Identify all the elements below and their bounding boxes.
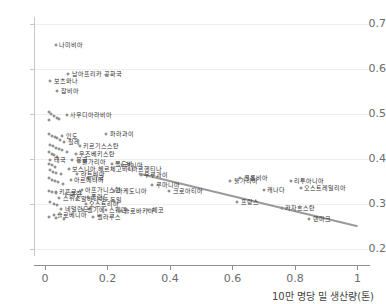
data-point[interactable] bbox=[56, 89, 59, 92]
data-point[interactable] bbox=[48, 118, 51, 121]
data-point[interactable] bbox=[168, 189, 171, 192]
data-point[interactable] bbox=[65, 114, 68, 117]
x-tick-mark bbox=[107, 265, 108, 270]
gridline bbox=[34, 24, 370, 25]
data-point-label: 아르메니아 bbox=[74, 177, 104, 183]
data-point[interactable] bbox=[71, 158, 74, 161]
data-point[interactable] bbox=[54, 43, 57, 46]
data-point[interactable] bbox=[48, 215, 51, 218]
x-tick-mark bbox=[295, 265, 296, 270]
data-point[interactable] bbox=[55, 172, 58, 175]
data-point[interactable] bbox=[58, 197, 61, 200]
y-tick-label: 0.2 bbox=[360, 242, 386, 255]
data-point[interactable] bbox=[67, 167, 70, 170]
data-point[interactable] bbox=[76, 198, 79, 201]
data-point[interactable] bbox=[57, 181, 60, 184]
y-tick-mark bbox=[30, 24, 34, 25]
data-point-label: 체코 bbox=[152, 207, 164, 213]
y-tick-mark bbox=[30, 114, 34, 115]
y-axis-line bbox=[34, 17, 35, 256]
data-point[interactable] bbox=[262, 188, 265, 191]
data-point[interactable] bbox=[59, 138, 62, 141]
data-point-label: 파라과이 bbox=[110, 131, 134, 137]
data-point[interactable] bbox=[69, 179, 72, 182]
y-tick-label: 0.3 bbox=[360, 197, 386, 210]
data-point[interactable] bbox=[54, 192, 57, 195]
data-point-label: 카자흐스탄 bbox=[285, 205, 315, 211]
y-tick-label: 0.6 bbox=[360, 62, 386, 75]
data-point-label: 프랑스 bbox=[241, 199, 259, 205]
gridline bbox=[34, 249, 370, 250]
y-tick-label: 0.7 bbox=[360, 17, 386, 30]
data-point[interactable] bbox=[74, 152, 77, 155]
x-tick-label: 0.8 bbox=[286, 272, 304, 285]
x-axis-line bbox=[34, 265, 370, 266]
data-point[interactable] bbox=[104, 209, 107, 212]
data-point[interactable] bbox=[62, 218, 65, 221]
data-point[interactable] bbox=[299, 186, 302, 189]
data-point[interactable] bbox=[56, 204, 59, 207]
data-point-label: 태국 bbox=[54, 157, 66, 163]
data-point-label: 캐나다 bbox=[267, 187, 285, 193]
data-point[interactable] bbox=[78, 145, 81, 148]
data-point[interactable] bbox=[139, 174, 142, 177]
data-point-label: 벨라루스 bbox=[97, 214, 121, 220]
data-point-label: 오스트레일리아 bbox=[304, 185, 346, 191]
data-point[interactable] bbox=[54, 217, 57, 220]
data-point-label: 우루과이 bbox=[144, 172, 168, 178]
data-point[interactable] bbox=[151, 183, 154, 186]
x-tick-label: 0 bbox=[41, 272, 48, 285]
data-point[interactable] bbox=[289, 179, 292, 182]
data-point[interactable] bbox=[239, 176, 242, 179]
data-point[interactable] bbox=[58, 118, 61, 121]
y-tick-mark bbox=[30, 204, 34, 205]
data-point[interactable] bbox=[112, 190, 115, 193]
data-point[interactable] bbox=[105, 133, 108, 136]
x-tick-mark bbox=[232, 265, 233, 270]
data-point[interactable] bbox=[92, 215, 95, 218]
data-point[interactable] bbox=[48, 201, 51, 204]
data-point-label: 보츠와나 bbox=[54, 78, 78, 84]
data-point[interactable] bbox=[77, 160, 80, 163]
y-tick-mark bbox=[30, 69, 34, 70]
y-tick-mark bbox=[30, 159, 34, 160]
x-tick-mark bbox=[170, 265, 171, 270]
x-axis-title: 10만 명당 밀 생산량(톤) bbox=[272, 288, 374, 303]
data-point-label: 마케도니아 bbox=[117, 188, 147, 194]
data-point[interactable] bbox=[67, 73, 70, 76]
data-point[interactable] bbox=[49, 159, 52, 162]
data-point[interactable] bbox=[308, 218, 311, 221]
data-point[interactable] bbox=[52, 202, 55, 205]
x-tick-mark bbox=[45, 265, 46, 270]
data-point-label: 잠비아 bbox=[61, 88, 79, 94]
data-point-label: 콜롬비아 bbox=[244, 175, 268, 181]
data-point[interactable] bbox=[63, 141, 66, 144]
data-point[interactable] bbox=[54, 165, 57, 168]
x-tick-label: 1 bbox=[354, 272, 361, 285]
data-point-label: 덴마크 bbox=[313, 216, 331, 222]
data-point-label: 남아프리카 공화국 bbox=[72, 71, 122, 77]
data-point[interactable] bbox=[60, 149, 63, 152]
data-point[interactable] bbox=[127, 167, 130, 170]
data-point-label: 벨기에 bbox=[87, 207, 105, 213]
data-point-label: 크로아티아 bbox=[173, 188, 203, 194]
data-point[interactable] bbox=[59, 172, 62, 175]
data-point-label: 아프가니스탄 bbox=[85, 187, 121, 193]
data-point[interactable] bbox=[147, 209, 150, 212]
data-point[interactable] bbox=[62, 182, 65, 185]
data-point[interactable] bbox=[49, 80, 52, 83]
data-point-label: 사우디아라비아 bbox=[70, 112, 112, 118]
scatter-chart: 0.20.30.40.50.60.7 00.20.40.60.81 나미비아남아… bbox=[0, 0, 386, 304]
data-point-label: 키르기스스탄 bbox=[83, 143, 119, 149]
data-point[interactable] bbox=[61, 134, 64, 137]
y-tick-label: 0.5 bbox=[360, 107, 386, 120]
data-point[interactable] bbox=[229, 179, 232, 182]
data-point-label: 리투아니아 bbox=[294, 178, 324, 184]
data-point[interactable] bbox=[65, 150, 68, 153]
x-tick-label: 0.4 bbox=[161, 272, 179, 285]
y-tick-label: 0.4 bbox=[360, 152, 386, 165]
x-tick-label: 0.2 bbox=[99, 272, 117, 285]
data-point[interactable] bbox=[236, 200, 239, 203]
data-point-label: 슬로바키아 bbox=[124, 208, 154, 214]
data-point[interactable] bbox=[280, 207, 283, 210]
